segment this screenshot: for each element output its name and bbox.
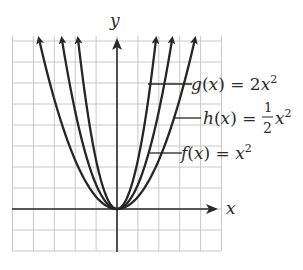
g-label-exponent: 2: [270, 73, 277, 86]
f-label: f(x) = x2: [179, 142, 252, 163]
f-label-exponent: 2: [245, 142, 252, 155]
x-axis-label: x: [226, 198, 236, 218]
h-label-tail: x2: [275, 107, 292, 128]
parabola-graph: x y g(x) = 2x2 h(x) = 1 2 x2 f(x) = x2: [0, 0, 303, 270]
h-label-denominator: 2: [263, 120, 272, 136]
h-label: h(x) =: [203, 108, 256, 128]
y-axis-label: y: [109, 10, 120, 30]
h-label-numerator: 1: [264, 100, 272, 115]
g-label: g(x) = 2x2: [191, 73, 277, 94]
